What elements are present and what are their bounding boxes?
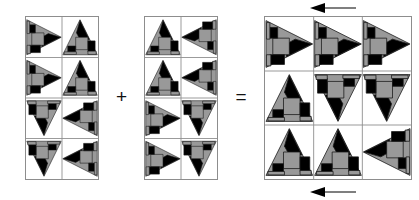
right-source-block bbox=[144, 16, 218, 180]
top-direction-arrow bbox=[310, 2, 356, 14]
equals-operator: = bbox=[218, 87, 264, 106]
bottom-direction-arrow bbox=[310, 186, 356, 198]
left-source-block bbox=[25, 16, 99, 180]
plus-operator: + bbox=[99, 87, 144, 106]
quilt-composition-diagram: + = bbox=[0, 0, 419, 200]
result-block bbox=[264, 16, 412, 180]
